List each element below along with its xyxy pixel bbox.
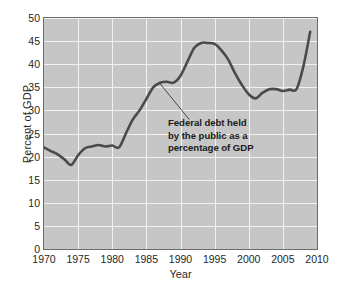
y-axis-tick-label: 20 (2, 151, 40, 163)
chart-figure: Percent of GDP Year 05101520253035404550… (0, 0, 339, 291)
annotation-line-3: percentage of GDP (168, 142, 292, 155)
y-axis-tick-label: 30 (2, 104, 40, 116)
y-axis-tick-label: 50 (2, 12, 40, 24)
y-axis-tick-label: 45 (2, 35, 40, 47)
annotation-leader-line (160, 84, 189, 120)
y-axis-tick-label: 15 (2, 174, 40, 186)
annotation-line-1: Federal debt held (168, 117, 292, 130)
y-axis-tick-labels: 05101520253035404550 (0, 0, 40, 291)
series-annotation: Federal debt held by the public as a per… (168, 117, 292, 155)
y-axis-tick-label: 35 (2, 81, 40, 93)
y-axis-tick-label: 10 (2, 197, 40, 209)
x-axis-label: Year (43, 268, 318, 280)
y-axis-tick-label: 5 (2, 220, 40, 232)
y-axis-tick-label: 25 (2, 128, 40, 140)
x-axis-tick-label: 2010 (294, 253, 339, 265)
y-axis-tick-label: 40 (2, 58, 40, 70)
annotation-line-2: by the public as a (168, 130, 292, 143)
